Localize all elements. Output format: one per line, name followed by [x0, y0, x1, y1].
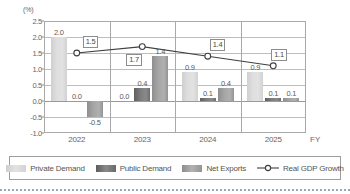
- chart-legend: Private Demand Public Demand Net Exports…: [9, 156, 341, 180]
- x-axis-tick-label: 2022: [47, 135, 107, 144]
- x-axis-tick-label: 2023: [112, 135, 172, 144]
- line-value-callout: 1.1: [271, 49, 287, 61]
- y-axis-unit-label: (%): [23, 6, 33, 13]
- net-exports-swatch-icon: [182, 165, 202, 172]
- y-axis-tick-label: 2.0: [2, 33, 42, 42]
- bottom-dotted-divider: [0, 189, 350, 191]
- line-data-point-marker: [270, 63, 276, 69]
- y-axis-tick-label: 1.0: [2, 65, 42, 74]
- x-axis-tick-label: 2024: [178, 135, 238, 144]
- legend-label-real-gdp-growth: Real GDP Growth: [283, 164, 344, 173]
- line-value-callout: 1.7: [126, 54, 142, 66]
- line-data-point-marker: [74, 50, 80, 56]
- y-axis-tick-label: -1.0: [2, 129, 42, 138]
- legend-label-public-demand: Public Demand: [120, 164, 172, 173]
- legend-item-real-gdp-growth: Real GDP Growth: [257, 164, 344, 173]
- private-demand-swatch-icon: [6, 165, 26, 172]
- x-axis-tick-label: 2025: [243, 135, 303, 144]
- y-axis-tick-label: 0.5: [2, 81, 42, 90]
- legend-item-public-demand: Public Demand: [96, 164, 172, 173]
- y-axis-tick-label: 1.5: [2, 49, 42, 58]
- legend-item-net-exports: Net Exports: [182, 164, 246, 173]
- y-axis-tick-label: -0.5: [2, 113, 42, 122]
- real-gdp-growth-polyline: [77, 47, 274, 66]
- public-demand-swatch-icon: [96, 165, 116, 172]
- legend-label-net-exports: Net Exports: [206, 164, 246, 173]
- line-marker-icon: [257, 164, 279, 172]
- legend-item-private-demand: Private Demand: [6, 164, 85, 173]
- legend-label-private-demand: Private Demand: [30, 164, 85, 173]
- line-value-callout: 1.5: [83, 36, 99, 48]
- line-data-point-marker: [139, 44, 145, 50]
- y-axis-tick-label: 0.0: [2, 97, 42, 106]
- line-data-point-marker: [205, 53, 211, 59]
- y-axis-tick-label: 2.5: [2, 17, 42, 26]
- line-value-callout: 1.4: [210, 39, 226, 51]
- gdp-growth-contribution-chart: (%) 2.52.01.51.00.50.0-0.5-1.0 202220232…: [0, 0, 350, 194]
- x-axis-title: FY: [310, 135, 320, 144]
